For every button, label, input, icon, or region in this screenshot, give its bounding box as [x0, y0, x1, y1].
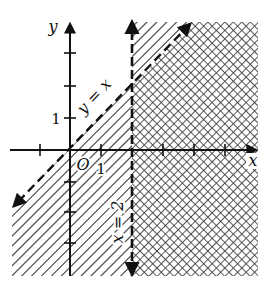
- inequality-graph: y x 1 O 1 y = x x = 2: [0, 0, 266, 282]
- x-tick-label-1: 1: [96, 160, 106, 178]
- line-label-x-equals-2: x = 2: [108, 201, 127, 244]
- origin-label: O: [76, 155, 89, 174]
- x-axis-label: x: [248, 151, 257, 170]
- y-tick-label-1: 1: [51, 110, 61, 128]
- y-axis-label: y: [47, 17, 58, 36]
